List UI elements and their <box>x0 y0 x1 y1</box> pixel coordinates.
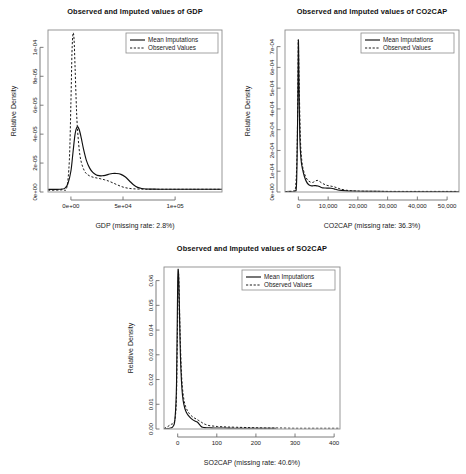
curve-observed-values <box>285 40 459 192</box>
plot-co2cap: Observed and Imputed values of CO2CAP010… <box>233 0 466 237</box>
y-tick-label: 4e-04 <box>268 101 275 117</box>
plot-title: Observed and Imputed values of GDP <box>67 7 203 16</box>
x-tick-label: 0 <box>176 439 180 446</box>
x-tick-label: 10,000 <box>319 202 338 209</box>
x-tick-label: 100 <box>212 439 223 446</box>
x-tick-label: 20,000 <box>349 202 368 209</box>
plot-gdp: Observed and Imputed values of GDP0e+005… <box>0 0 233 237</box>
y-tick-label: 6e-04 <box>268 59 275 75</box>
y-tick-label: 8e-05 <box>31 68 38 84</box>
y-tick-label: 2e-05 <box>31 155 38 171</box>
legend-label-mean-imputations: Mean Imputations <box>383 36 433 44</box>
x-axis-label: GDP (missing rate: 2.8%) <box>95 222 174 230</box>
y-tick-label: 0.05 <box>147 299 154 311</box>
curve-mean-imputations <box>48 127 222 190</box>
legend-label-mean-imputations: Mean Imputations <box>264 273 314 281</box>
panel-gdp: Observed and Imputed values of GDP0e+005… <box>0 0 233 237</box>
y-axis-label: Relative Density <box>244 85 252 136</box>
x-axis-label: CO2CAP (missing rate: 36.3%) <box>324 222 421 230</box>
curves-group <box>285 40 459 192</box>
y-tick-label: 3e-04 <box>268 121 275 137</box>
plot-frame <box>164 267 340 429</box>
figure-container: Observed and Imputed values of GDP0e+005… <box>0 0 466 474</box>
x-axis-label: SO2CAP (missing rate: 40.6%) <box>204 459 300 467</box>
legend-label-mean-imputations: Mean Imputations <box>148 36 198 44</box>
panel-so2cap: Observed and Imputed values of SO2CAP010… <box>116 237 350 474</box>
plot-title: Observed and Imputed values of CO2CAP <box>297 7 448 16</box>
x-tick-label: 0 <box>297 202 301 209</box>
y-tick-label: 7e-04 <box>268 38 275 54</box>
legend: Mean ImputationsObserved Values <box>242 270 335 290</box>
legend: Mean ImputationsObserved Values <box>126 33 218 53</box>
x-tick-label: 40,000 <box>408 202 427 209</box>
curve-observed-values <box>48 33 222 191</box>
y-tick-label: 0e+00 <box>268 183 275 201</box>
x-tick-label: 400 <box>329 439 340 446</box>
y-tick-label: 2e-04 <box>268 142 275 158</box>
y-tick-label: 0e+00 <box>31 183 38 201</box>
y-tick-label: 0.03 <box>147 348 154 360</box>
legend: Mean ImputationsObserved Values <box>361 33 454 53</box>
legend-label-observed-values: Observed Values <box>148 44 196 51</box>
y-tick-label: 0.06 <box>147 274 154 286</box>
curves-group <box>48 33 222 191</box>
plot-title: Observed and Imputed values of SO2CAP <box>177 244 327 253</box>
panel-co2cap: Observed and Imputed values of CO2CAP010… <box>233 0 466 237</box>
x-tick-label: 300 <box>290 439 301 446</box>
y-tick-label: 0.04 <box>147 324 154 336</box>
y-tick-label: 0.01 <box>147 398 154 410</box>
x-tick-label: 5e+04 <box>114 202 132 209</box>
x-tick-label: 200 <box>251 439 262 446</box>
x-tick-label: 0e+00 <box>62 202 80 209</box>
plot-frame <box>285 30 459 192</box>
y-tick-label: 0.00 <box>147 422 154 434</box>
x-tick-label: 1e+05 <box>167 202 185 209</box>
plot-frame <box>48 30 222 192</box>
legend-label-observed-values: Observed Values <box>383 44 431 51</box>
curve-mean-imputations <box>164 269 275 429</box>
y-axis-label: Relative Density <box>10 85 18 136</box>
curves-group <box>164 269 340 429</box>
plot-so2cap: Observed and Imputed values of SO2CAP010… <box>116 237 350 474</box>
y-tick-label: 1e-04 <box>31 39 38 55</box>
y-axis-label: Relative Density <box>127 322 135 373</box>
y-tick-label: 4e-05 <box>31 126 38 142</box>
x-tick-label: 30,000 <box>378 202 397 209</box>
legend-label-observed-values: Observed Values <box>264 281 312 288</box>
y-tick-label: 1e-04 <box>268 163 275 179</box>
y-tick-label: 6e-05 <box>31 97 38 113</box>
curve-observed-values <box>164 274 340 429</box>
y-tick-label: 0.02 <box>147 373 154 385</box>
y-tick-label: 5e-04 <box>268 80 275 96</box>
x-tick-label: 50,000 <box>438 202 457 209</box>
curve-mean-imputations <box>285 40 459 192</box>
